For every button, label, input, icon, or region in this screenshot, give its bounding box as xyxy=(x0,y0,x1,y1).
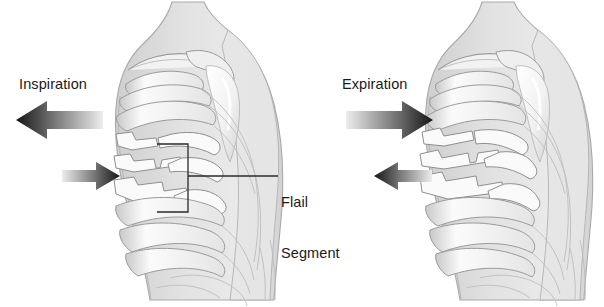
flail-segment-label-line2: Segment xyxy=(281,245,340,262)
panel-inspiration xyxy=(16,2,283,306)
expiration-label: Expiration xyxy=(342,76,407,93)
flail-segment-inward-arrow xyxy=(62,162,120,190)
torso-right xyxy=(420,2,593,306)
expiration-arrow xyxy=(346,101,433,139)
panel-expiration xyxy=(346,2,593,306)
flail-segment-label: Flail Segment xyxy=(281,160,340,279)
torso-left xyxy=(114,2,283,306)
inspiration-arrow xyxy=(16,101,103,139)
flail-segment-label-line1: Flail xyxy=(281,194,340,211)
inspiration-label: Inspiration xyxy=(19,76,87,93)
